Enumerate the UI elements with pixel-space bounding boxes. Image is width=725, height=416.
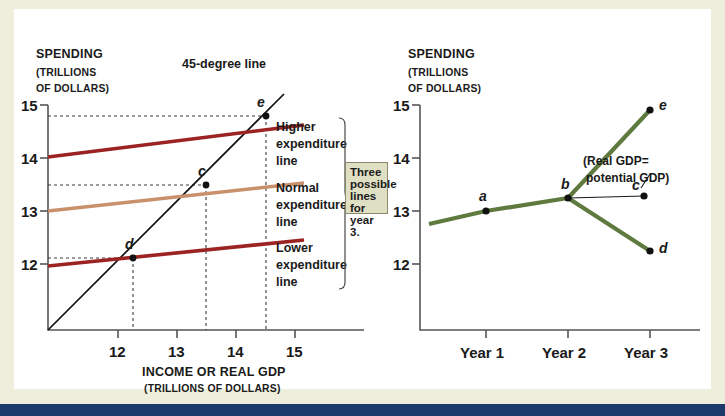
callout-box-line3: lines for — [350, 190, 383, 214]
right-point-e-label: e — [659, 97, 667, 113]
right-x-label-year1: Year 1 — [460, 344, 504, 361]
series-normal-path-to-c — [568, 196, 644, 198]
series-lower-path-to-d — [568, 198, 650, 251]
callout-box-line4: year 3. — [350, 214, 383, 238]
left-x-axis-title-line2: (TRILLIONS OF DOLLARS) — [144, 383, 281, 394]
right-point-a-label: a — [479, 188, 487, 204]
left-x-label-13: 13 — [168, 343, 185, 360]
normal-line-label-1: Normal — [276, 181, 319, 195]
line-45-degree-label: 45-degree line — [182, 57, 266, 71]
left-x-axis-title-line1: INCOME OR REAL GDP — [142, 365, 286, 379]
right-y-axis-title-line1: SPENDING — [408, 47, 475, 61]
point-c-marker — [203, 182, 210, 189]
lower-line-label-3: line — [276, 275, 298, 289]
left-x-label-12: 12 — [109, 343, 126, 360]
left-y-axis-title-line2: (TRILLIONS — [36, 67, 96, 78]
right-point-b-label: b — [561, 176, 570, 192]
left-y-label-15: 15 — [21, 97, 38, 114]
right-y-axis-title-line2: (TRILLIONS — [408, 67, 468, 78]
left-y-axis-title-line3: OF DOLLARS) — [36, 83, 109, 94]
point-d-label: d — [125, 236, 134, 252]
point-e-marker — [263, 113, 270, 120]
point-c-label: c — [198, 163, 206, 179]
callout-box-line2: possible — [350, 178, 383, 190]
normal-line-label-2: expenditure — [276, 198, 347, 212]
left-y-label-14: 14 — [21, 150, 38, 167]
footer-band — [0, 404, 725, 416]
figure-root: SPENDING (TRILLIONS OF DOLLARS) 15 14 13… — [0, 0, 725, 416]
right-point-d-marker — [646, 247, 653, 254]
point-e-label: e — [257, 94, 265, 110]
point-d-marker — [130, 255, 137, 262]
right-y-label-12: 12 — [393, 256, 410, 273]
right-point-e-marker — [646, 106, 653, 113]
right-point-c-marker — [640, 192, 647, 199]
left-y-label-13: 13 — [21, 203, 38, 220]
right-point-b-marker — [564, 194, 571, 201]
left-y-label-12: 12 — [21, 256, 38, 273]
right-point-a-marker — [482, 207, 489, 214]
left-x-label-14: 14 — [227, 343, 244, 360]
right-y-axis-title-line3: OF DOLLARS) — [408, 83, 481, 94]
left-chart-keynesian-cross: SPENDING (TRILLIONS OF DOLLARS) 15 14 13… — [14, 0, 388, 400]
callout-box-three-possible-lines: Three possible lines for year 3. — [345, 162, 388, 214]
annotation-real-gdp-line2: potential GDP) — [586, 171, 669, 185]
annotation-real-gdp-line1: (Real GDP= — [583, 154, 649, 168]
higher-line-label-1: Higher — [276, 120, 316, 134]
right-y-label-15: 15 — [393, 97, 410, 114]
higher-line-label-3: line — [276, 154, 298, 168]
normal-line-label-3: line — [276, 215, 298, 229]
right-x-label-year2: Year 2 — [542, 344, 586, 361]
right-y-label-13: 13 — [393, 203, 410, 220]
higher-line-label-2: expenditure — [276, 137, 347, 151]
left-y-axis-title-line1: SPENDING — [36, 47, 103, 61]
callout-box-line1: Three — [350, 166, 383, 178]
series-baseline-to-year2 — [429, 198, 568, 224]
line-45-degree — [48, 94, 284, 330]
right-point-d-label: d — [659, 240, 668, 256]
lower-line-label-2: expenditure — [276, 258, 347, 272]
right-chart-time-path: SPENDING (TRILLIONS OF DOLLARS) 15 14 13… — [388, 0, 718, 400]
right-x-label-year3: Year 3 — [624, 344, 668, 361]
lower-line-label-1: Lower — [276, 241, 313, 255]
right-y-label-14: 14 — [393, 150, 410, 167]
left-x-label-15: 15 — [286, 343, 303, 360]
